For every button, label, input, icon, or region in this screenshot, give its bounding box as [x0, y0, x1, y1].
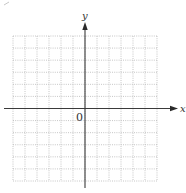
y-axis-label: y [81, 10, 88, 21]
coordinate-plane-figure: x y 0 [0, 0, 186, 193]
x-axis-arrow-icon [170, 106, 178, 111]
x-axis-label: x [180, 103, 186, 114]
coordinate-plane: x y 0 [0, 0, 186, 193]
cropped-mark [4, 2, 9, 5]
y-axis-arrow-icon [82, 22, 87, 30]
origin-label: 0 [76, 111, 83, 124]
